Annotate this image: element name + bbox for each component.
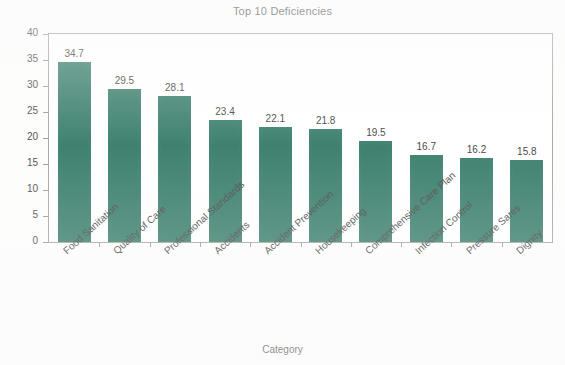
y-axis-tick-mark — [43, 190, 49, 191]
x-axis-tick-mark — [99, 242, 100, 247]
y-axis-tick-label: 35 — [27, 53, 38, 64]
bar-value-label: 23.4 — [198, 106, 253, 117]
y-axis-tick-mark — [43, 164, 49, 165]
y-axis-tick-label: 40 — [27, 27, 38, 38]
y-axis-tick-label: 25 — [27, 105, 38, 116]
x-axis-tick-mark — [200, 242, 201, 247]
y-axis-tick-label: 0 — [32, 235, 38, 246]
x-axis-tick-mark — [351, 242, 352, 247]
x-axis-tick-mark — [301, 242, 302, 247]
x-axis-tick-mark — [451, 242, 452, 247]
bar — [108, 89, 141, 242]
y-axis-tick-mark — [43, 216, 49, 217]
x-axis-tick-mark — [401, 242, 402, 247]
bar-value-label: 19.5 — [348, 127, 403, 138]
y-axis-tick-label: 10 — [27, 183, 38, 194]
plot-inner: 051015202530354034.729.528.123.422.121.8… — [49, 34, 552, 242]
chart-title: Top 10 Deficiencies — [0, 5, 565, 17]
chart-figure: Top 10 Deficiencies 051015202530354034.7… — [0, 0, 565, 365]
bar-value-label: 28.1 — [147, 82, 202, 93]
bar-value-label: 34.7 — [47, 48, 102, 59]
y-axis-tick-mark — [43, 138, 49, 139]
y-axis-tick-label: 20 — [27, 131, 38, 142]
y-axis-tick-mark — [43, 86, 49, 87]
y-axis-tick-mark — [43, 242, 49, 243]
y-axis-tick-label: 30 — [27, 79, 38, 90]
bar — [158, 96, 191, 242]
bar — [58, 62, 91, 242]
x-axis-tick-mark — [150, 242, 151, 247]
x-axis-label: Category — [0, 344, 565, 355]
bar-value-label: 16.7 — [399, 141, 454, 152]
bar-value-label: 29.5 — [97, 75, 152, 86]
x-axis-tick-mark — [502, 242, 503, 247]
bar-value-label: 16.2 — [449, 144, 504, 155]
y-axis-tick-mark — [43, 60, 49, 61]
x-axis-tick-mark — [250, 242, 251, 247]
y-axis-tick-mark — [43, 112, 49, 113]
y-axis-tick-label: 15 — [27, 157, 38, 168]
y-axis-tick-label: 5 — [32, 209, 38, 220]
bar-value-label: 22.1 — [248, 113, 303, 124]
bar-value-label: 21.8 — [298, 115, 353, 126]
bar-value-label: 15.8 — [499, 146, 554, 157]
y-axis-tick-mark — [43, 34, 49, 35]
